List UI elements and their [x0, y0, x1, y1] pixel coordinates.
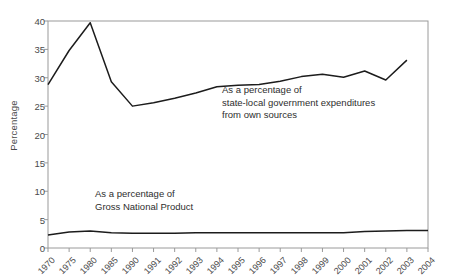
chart-figure: Percentage 0510152025303540 197019751980…: [0, 0, 460, 275]
x-axis-tick-labels: 1970197519801985199019911992199319941995…: [0, 0, 460, 275]
annotation-gross-national-product: As a percentage of Gross National Produc…: [95, 188, 193, 213]
annotation-state-local-expenditures: As a percentage of state-local governmen…: [222, 84, 375, 122]
